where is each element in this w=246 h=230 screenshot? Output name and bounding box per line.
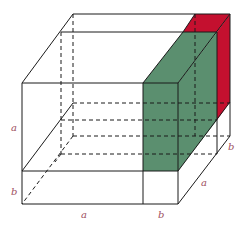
label-bottom-a: a — [81, 209, 87, 220]
box-diagram: a b a b a b — [0, 0, 246, 230]
label-bottom-b: b — [158, 209, 164, 220]
green-slab-front — [143, 83, 178, 171]
label-depth-a: a — [201, 177, 207, 188]
diagram-canvas: a b a b a b — [0, 0, 246, 230]
label-depth-b: b — [228, 141, 234, 152]
label-left-a: a — [11, 122, 17, 133]
label-left-b: b — [11, 186, 17, 197]
